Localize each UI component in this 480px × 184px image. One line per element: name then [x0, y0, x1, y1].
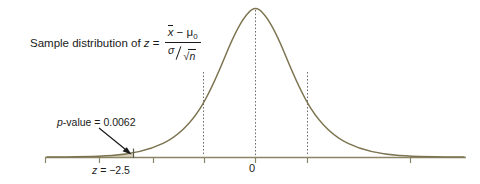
dashed-vertical-lines — [204, 10, 308, 156]
caption-formula: Sample distribution of z = x − μ0σ√n — [30, 26, 201, 62]
axis-ticks — [46, 158, 411, 164]
axis-group — [45, 158, 466, 164]
radicand-n: n — [188, 49, 196, 62]
z-value-text: = −2.5 — [97, 164, 130, 176]
zero-axis-label: 0 — [249, 163, 255, 174]
sigma-over-sqrt-n: σ√n — [168, 44, 197, 60]
p-value-text: -value = 0.0062 — [63, 116, 136, 128]
caption-lead-text: Sample distribution of — [30, 37, 144, 49]
caption-equals: = — [150, 37, 163, 49]
sqrt-n-group: √n — [182, 50, 196, 62]
radical: √n — [182, 49, 196, 63]
minus-sign: − — [173, 26, 186, 38]
z-critical-label: z = −2.5 — [92, 165, 130, 176]
formula-denominator: σ√n — [165, 43, 201, 60]
formula-fraction: x − μ0σ√n — [165, 25, 201, 61]
formula-numerator: x − μ0 — [165, 25, 201, 43]
p-value-annotation: p-value = 0.0062 — [57, 117, 136, 128]
p-value-arrow — [99, 128, 132, 155]
mu-subscript: 0 — [193, 32, 197, 41]
